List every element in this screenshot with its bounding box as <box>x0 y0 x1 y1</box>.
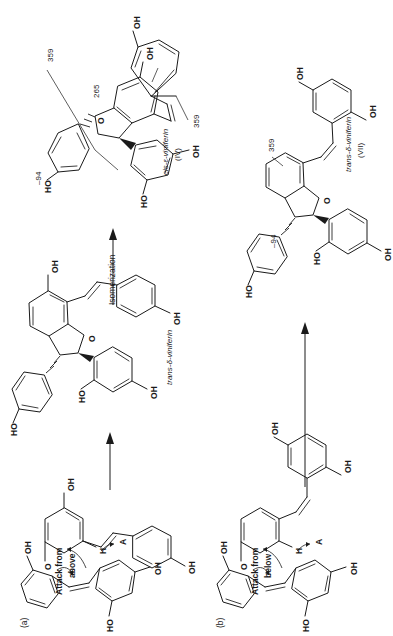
panel-b-note-line2: below <box>264 554 273 578</box>
panel-a-lower-right-ring <box>96 560 135 601</box>
atom-label-ho: HO <box>302 619 311 632</box>
atom-label-oh: OH <box>271 422 280 435</box>
benzofuran-aromatic-ring-mid <box>29 291 68 336</box>
atom-label-ho: HO <box>78 390 87 403</box>
atom-label-ho: HO <box>245 285 254 298</box>
fragment-leader-359-top <box>47 70 118 170</box>
atom-label-o-furan: O <box>323 197 332 204</box>
atom-label-h: H <box>295 548 304 554</box>
panel-b-resveratrol-top-ring <box>241 508 279 553</box>
atom-label-oh: OH <box>384 248 393 261</box>
atom-label-oh: OH <box>296 67 305 80</box>
atom-label-oh: OH <box>344 460 353 473</box>
hash-bond-mid <box>46 356 60 373</box>
roman-numeral: (IV) <box>173 148 182 161</box>
atom-label-oh: OH <box>67 478 76 491</box>
reaction-arrow-panel-a <box>106 432 114 490</box>
atom-label-oh: OH <box>369 105 378 118</box>
fragment-label-359-top: 359 <box>47 49 55 62</box>
hash-bond-top <box>80 114 95 127</box>
panel-b-note-line1: Attack from <box>251 548 260 595</box>
atom-label-oh: OH <box>220 541 229 554</box>
atom-label-ho: HO <box>313 252 322 265</box>
hash-bond-right <box>281 218 295 235</box>
atom-label-oh: OH <box>146 47 155 60</box>
atom-label-oh: OH <box>154 562 163 575</box>
panel-label-b: (b) <box>216 618 225 628</box>
fragment-leader-94-top <box>152 68 158 82</box>
atom-label-ho: HO <box>44 180 53 193</box>
reaction-arrow-panel-b <box>301 322 309 487</box>
atom-label-oh: OH <box>350 562 359 575</box>
fragment-label-94-right: –94 <box>270 235 278 248</box>
roman-numeral: (VII) <box>356 143 365 158</box>
atom-label-oh: OH <box>192 145 201 158</box>
atom-label-oh: OH <box>150 386 159 399</box>
atom-label-o-furan: O <box>97 117 106 124</box>
atom-label-o-furan: O <box>88 335 97 342</box>
atom-label-h: H <box>99 548 108 554</box>
panel-a-note-line1: Attack from <box>55 548 64 595</box>
resorcinol-ring-right <box>329 209 367 254</box>
step-label-isomerization: Isomerization <box>108 254 117 305</box>
panel-a-phenyl-right <box>133 526 171 568</box>
atom-label-oh: OH <box>188 561 197 574</box>
fragment-label-265: 265 <box>93 85 101 98</box>
fragment-leader-359-right <box>176 96 188 120</box>
furan-ring-right <box>285 186 319 217</box>
atom-label-ho: HO <box>140 195 149 208</box>
panel-b-lower-right-ring <box>292 560 331 601</box>
fragment-label-359-right-structure: 359 <box>268 139 276 152</box>
structure-name-trans-delta-viniferin-left: trans-δ-viniferin <box>166 330 174 385</box>
atom-label-ho: HO <box>10 423 19 436</box>
trans-stilbene-arm-right <box>303 123 336 163</box>
benzofuran-aromatic-ring-right <box>266 153 304 198</box>
p-hydroxyphenyl-ring-right <box>247 234 287 274</box>
top-phenyl-ring <box>131 40 179 96</box>
atom-label-radical-a: A <box>315 539 324 545</box>
atom-label-oh: OH <box>51 260 60 273</box>
structure-name-trans-delta-viniferin-right: trans-δ-viniferin <box>345 117 353 172</box>
atom-label-o-radical: O <box>240 563 249 570</box>
structure-name-cis-epsilon-viniferin: cis-ε-viniferin <box>162 129 170 175</box>
panel-a-resveratrol-top-ring <box>45 508 83 553</box>
p-hydroxyphenyl-ring-mid <box>12 372 52 412</box>
atom-label-ho: HO <box>106 619 115 632</box>
benzofuran-aromatic-ring-top <box>114 77 158 123</box>
structure-roman-trans-delta-viniferin-right: (VII) <box>357 143 365 158</box>
atom-label-oh: OH <box>173 312 182 325</box>
fragment-label-359-right: 359 <box>193 115 201 128</box>
phenyl-ring-mid-right <box>117 275 155 317</box>
p-hydroxyphenyl-ring-top <box>48 124 89 172</box>
furan-ring-mid <box>49 324 84 355</box>
fragment-label-94-top: –94 <box>35 172 43 185</box>
atom-label-o-radical: O <box>44 563 53 570</box>
structure-roman-cis-epsilon-viniferin: (IV) <box>174 148 182 161</box>
panel-a-note-line2: above <box>68 553 77 578</box>
atom-label-radical-a: A <box>119 539 128 545</box>
atom-label-oh: OH <box>24 541 33 554</box>
fragment-leader-359-right-structure <box>272 157 283 166</box>
resorcinol-ring-mid <box>94 347 132 392</box>
atom-label-oh: OH <box>133 16 142 29</box>
panel-b-top-resorcinol <box>288 434 326 478</box>
panel-label-a: (a) <box>20 618 29 628</box>
